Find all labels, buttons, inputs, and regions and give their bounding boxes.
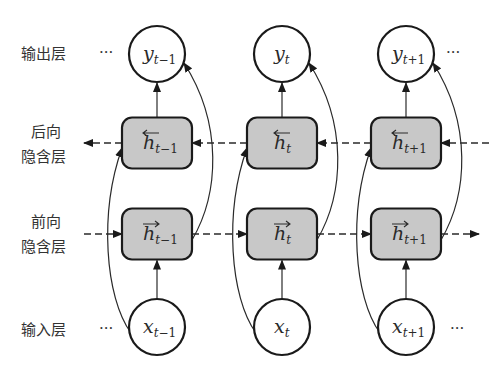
bidirectional-rnn-diagram: 输出层 后向 隐含层 前向 隐含层 输入层 ··· ··· ··· ··· yt… bbox=[0, 0, 495, 377]
backward-layer-label-line2: 隐含层 bbox=[21, 148, 66, 166]
nodes: yt−1ht−1ht−1xt−1yththtxtyt+1ht+1ht+1xt+1 bbox=[122, 26, 441, 355]
input-node: xt−1 bbox=[129, 299, 185, 355]
input-node: xt bbox=[254, 299, 310, 355]
output-node: yt+1 bbox=[378, 26, 434, 82]
backward-hidden-node: ht−1 bbox=[122, 118, 192, 169]
input-node: xt+1 bbox=[378, 299, 434, 355]
forward-hidden-node: ht+1 bbox=[371, 209, 441, 260]
output-ellipsis-right: ··· bbox=[446, 43, 460, 61]
backward-hidden-node: ht bbox=[247, 118, 317, 169]
forward-hidden-node: ht bbox=[247, 209, 317, 260]
output-node: yt bbox=[254, 26, 310, 82]
output-layer-label: 输出层 bbox=[21, 45, 66, 63]
input-ellipsis-left: ··· bbox=[99, 319, 113, 337]
edges bbox=[84, 63, 489, 333]
forward-layer-label-line2: 隐含层 bbox=[21, 238, 66, 256]
forward-hidden-node: ht−1 bbox=[122, 209, 192, 260]
input-layer-label: 输入层 bbox=[21, 321, 66, 339]
backward-hidden-node: ht+1 bbox=[371, 118, 441, 169]
output-node: yt−1 bbox=[129, 26, 185, 82]
forward-layer-label-line1: 前向 bbox=[31, 213, 61, 231]
backward-layer-label-line1: 后向 bbox=[31, 123, 61, 141]
output-ellipsis-left: ··· bbox=[99, 43, 113, 61]
input-ellipsis-right: ··· bbox=[450, 319, 464, 337]
